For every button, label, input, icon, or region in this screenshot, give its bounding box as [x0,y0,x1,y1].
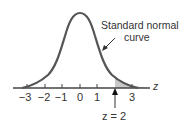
z2-marker-label: z = 2 [102,111,126,122]
axis-label-z: z [153,81,158,92]
normal-curve-diagram: Standard normal curve z −3 −2 −1 0 1 3 z… [0,0,185,126]
z2-marker-arrow-icon [112,88,118,108]
tick-label-neg3: −3 [19,91,32,103]
tick-label-3: 3 [129,91,135,103]
curve-label-line2: curve [124,32,150,43]
tick-label-0: 0 [77,91,83,103]
curve-label-line1: Standard normal [101,20,179,31]
tick-label-neg2: −2 [38,91,51,103]
tick-label-neg1: −1 [55,91,68,103]
curve-pointer-arrow-icon [102,38,115,51]
tick-label-1: 1 [94,91,100,103]
